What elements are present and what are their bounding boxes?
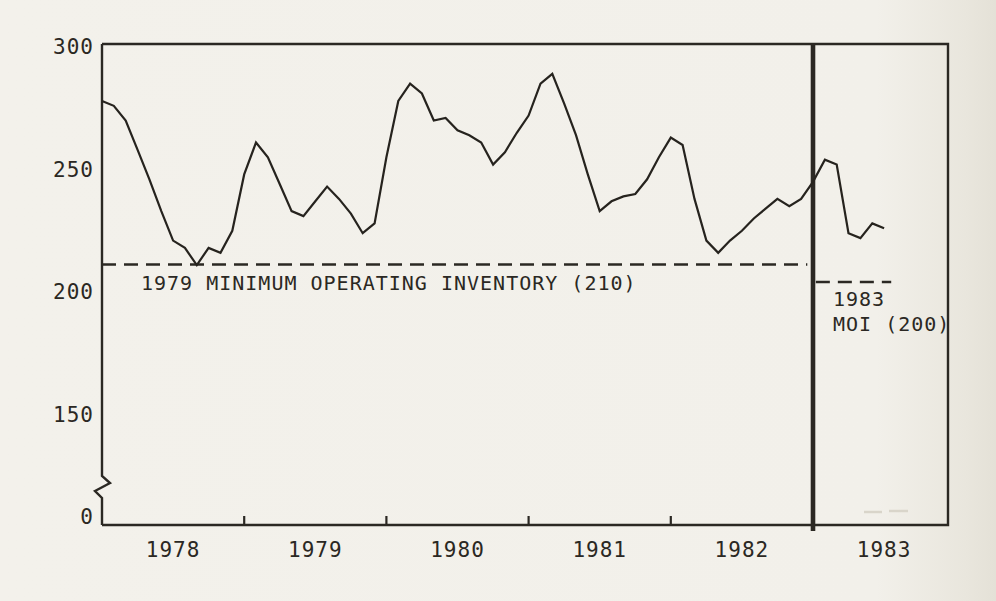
x-tick-label-1979: 1979	[270, 538, 360, 563]
x-tick-label-1983: 1983	[839, 538, 929, 563]
inventory-series-line	[102, 74, 884, 265]
x-tick-label-1978: 1978	[128, 538, 218, 563]
inventory-chart: 3002502001500 197819791980198119821983 1…	[0, 0, 996, 601]
y-tick-label-150: 150	[24, 403, 94, 428]
moi-1983-label: 1983 MOI (200)	[833, 287, 950, 337]
x-tick-label-1981: 1981	[555, 538, 645, 563]
y-tick-label-0: 0	[24, 505, 94, 530]
x-tick-label-1980: 1980	[413, 538, 503, 563]
moi-1983-label-value: MOI (200)	[833, 312, 950, 337]
y-axis-with-break-icon	[95, 44, 110, 525]
y-tick-label-250: 250	[24, 158, 94, 183]
x-tick-label-1982: 1982	[697, 538, 787, 563]
moi-1979-label: 1979 MINIMUM OPERATING INVENTORY (210)	[141, 271, 637, 296]
y-tick-label-300: 300	[24, 35, 94, 60]
scan-artifact	[864, 511, 908, 512]
y-tick-label-200: 200	[24, 280, 94, 305]
moi-1983-label-year: 1983	[833, 287, 950, 312]
